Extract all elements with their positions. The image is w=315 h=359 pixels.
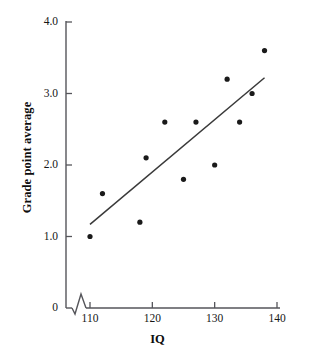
scatter-plot-figure: Grade point average IQ 01.02.03.04.0 110… xyxy=(0,0,315,359)
plot-canvas xyxy=(0,0,315,359)
data-point xyxy=(262,48,267,53)
data-point xyxy=(193,120,198,125)
data-point xyxy=(100,191,105,196)
data-point xyxy=(137,220,142,225)
regression-line-layer xyxy=(90,78,265,225)
data-point xyxy=(237,120,242,125)
x-axis-break-zigzag xyxy=(72,294,86,314)
data-points-layer xyxy=(87,48,267,239)
data-point xyxy=(144,155,149,160)
regression-line xyxy=(90,78,265,225)
data-point xyxy=(162,120,167,125)
data-point xyxy=(87,234,92,239)
data-point xyxy=(181,177,186,182)
data-point xyxy=(225,77,230,82)
data-point xyxy=(249,91,254,96)
axes-layer xyxy=(66,21,280,314)
data-point xyxy=(212,162,217,167)
